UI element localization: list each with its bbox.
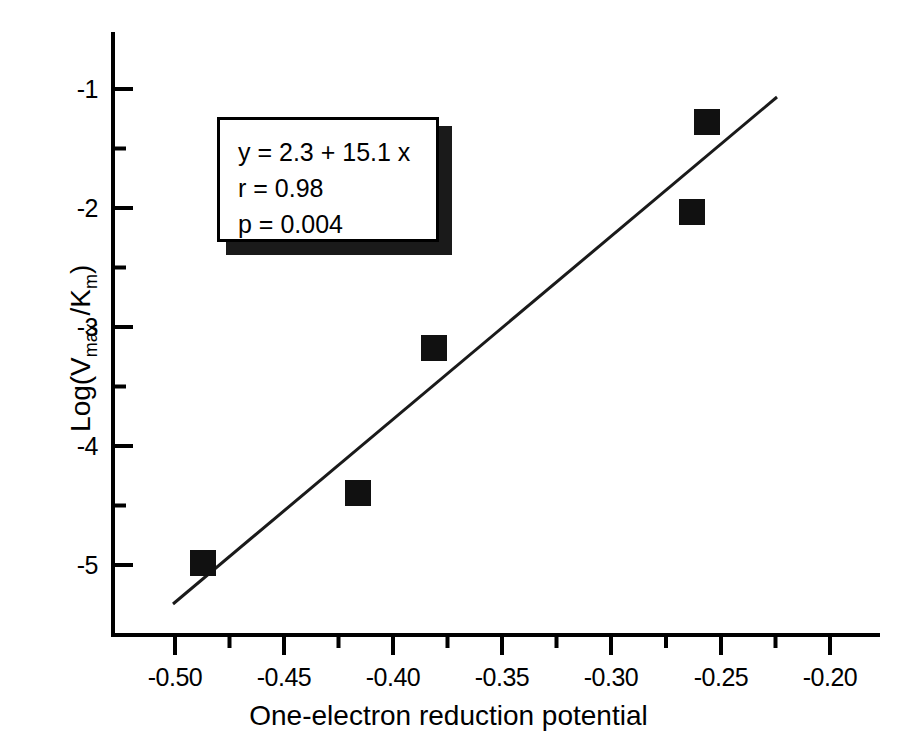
- data-point: [679, 199, 705, 225]
- y-axis-title-mid: /K: [65, 289, 96, 323]
- x-tick-label: -0.30: [584, 663, 638, 692]
- y-axis-title-sub-max: max: [81, 323, 101, 357]
- x-tick-label: -0.50: [148, 663, 202, 692]
- x-axis-title: One-electron reduction potential: [0, 700, 897, 732]
- x-tick-label: -0.25: [694, 663, 748, 692]
- annotation-box: y = 2.3 + 15.1 x r = 0.98 p = 0.004: [217, 117, 439, 242]
- y-axis-title-sub-m: m: [81, 274, 101, 289]
- x-tick-label: -0.45: [257, 663, 311, 692]
- annotation-equation: y = 2.3 + 15.1 x: [238, 134, 436, 170]
- x-tick-label: -0.40: [366, 663, 420, 692]
- y-axis-title-prefix: Log(V: [65, 357, 96, 432]
- y-tick-label: -4: [50, 432, 98, 461]
- y-tick-label: -2: [50, 194, 98, 223]
- scatter-plot-figure: -1 -2 -3 -4 -5 -0.50 -0.45 -0.40 -0.35 -…: [0, 0, 897, 756]
- data-point: [345, 480, 371, 506]
- annotation-pvalue: p = 0.004: [238, 206, 436, 242]
- data-point: [694, 109, 720, 135]
- annotation-correlation: r = 0.98: [238, 170, 436, 206]
- y-tick-label: -5: [50, 551, 98, 580]
- plot-canvas: [0, 0, 897, 756]
- x-tick-label: -0.35: [475, 663, 529, 692]
- y-major-ticks: [113, 89, 133, 565]
- y-axis-title-suffix: ): [65, 265, 96, 274]
- x-major-ticks: [175, 635, 830, 655]
- y-tick-label: -1: [50, 75, 98, 104]
- y-axis-title: Log(Vmax /Km): [65, 265, 102, 432]
- x-tick-label: -0.20: [803, 663, 857, 692]
- data-point: [421, 335, 447, 361]
- data-point: [190, 550, 216, 576]
